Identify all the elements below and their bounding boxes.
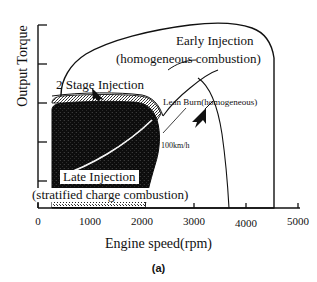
x-axis-label: Engine speed(rpm)	[0, 236, 317, 252]
x-tick-label-0: 0	[18, 215, 58, 227]
y-axis-ticks	[38, 25, 47, 181]
annotation-early-injection: Early Injection	[176, 34, 254, 48]
x-tick-label-5000: 5000	[278, 215, 317, 227]
annotation-two-stage-injection: 2 Stage Injection	[56, 78, 144, 92]
annotation-stratified-charge-combustion: (stratified charge combustion)	[30, 188, 190, 202]
x-tick-label-3000: 3000	[174, 215, 214, 227]
chart-plot-area: Early Injection (homogeneous combustion)…	[0, 0, 317, 282]
y-axis-label: Output Torque	[15, 1, 31, 131]
annotation-homogeneous-combustion: (homogeneous combustion)	[116, 52, 261, 66]
annotation-road-load-100kmh: 100km/h	[160, 142, 190, 150]
figure-caption: (a)	[0, 262, 317, 274]
x-tick-label-2000: 2000	[122, 215, 162, 227]
annotation-lean-burn: Lean Burn(homogeneous)	[163, 98, 257, 107]
figure-root: Early Injection (homogeneous combustion)…	[0, 0, 317, 282]
annotation-late-injection: Late Injection	[60, 170, 139, 184]
x-tick-label-4000: 4000	[226, 217, 266, 229]
x-tick-label-1000: 1000	[70, 215, 110, 227]
